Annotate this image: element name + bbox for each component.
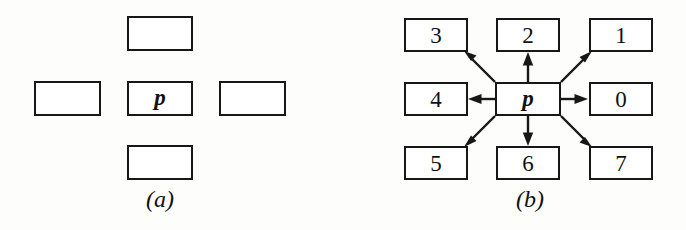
panel-a-caption: (a) [100,186,220,213]
arrow-to-2 [523,52,533,82]
cell-center-pixel-b: p [495,82,561,116]
arrow-to-6 [523,116,533,146]
arrow-to-0 [561,94,588,104]
cell-bottom-neighbor [127,145,193,180]
panel-b-chain-code-directions: 3 2 1 4 p 0 5 6 7 (b) [343,0,686,230]
cell-direction-5-label: 5 [430,152,442,175]
cell-top-neighbor [127,16,193,51]
cell-direction-7: 7 [589,146,653,180]
cell-center-pixel-b-label: p [522,87,534,112]
arrow-to-5 [464,116,495,147]
cell-center-pixel-a-label: p [154,86,166,111]
arrow-to-4 [468,94,495,104]
cell-direction-0: 0 [589,82,653,116]
cell-direction-1: 1 [589,18,653,52]
arrow-to-7 [561,116,592,147]
cell-right-neighbor [219,81,286,116]
panel-b-caption: (b) [470,186,590,213]
cell-direction-2: 2 [496,18,560,52]
cell-direction-0-label: 0 [615,88,627,111]
cell-direction-6: 6 [496,146,560,180]
cell-direction-7-label: 7 [615,152,627,175]
cell-direction-3: 3 [404,18,468,52]
cell-left-neighbor [34,81,101,116]
cell-center-pixel-a: p [127,81,193,116]
panel-a-four-neighbors: p (a) [0,0,343,230]
cell-direction-1-label: 1 [615,24,627,47]
arrow-to-1 [561,51,592,82]
cell-direction-2-label: 2 [522,24,534,47]
cell-direction-6-label: 6 [522,152,534,175]
arrow-to-3 [464,51,495,82]
figure-container: p (a) [0,0,686,230]
cell-direction-4-label: 4 [430,88,442,111]
cell-direction-5: 5 [404,146,468,180]
cell-direction-4: 4 [404,82,468,116]
cell-direction-3-label: 3 [430,24,442,47]
